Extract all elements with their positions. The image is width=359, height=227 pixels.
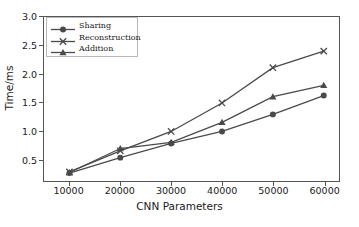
x-tick-label: 60000 [297,185,353,196]
x-tick-label: 50000 [245,185,301,196]
legend-label: Sharing [79,21,111,30]
y-tick-label: 1.5 [3,97,37,108]
legend-box: SharingReconstructionAddition [46,17,138,57]
data-point-circle [117,155,123,161]
y-tick-label: 2.5 [3,39,37,50]
x-tick-label: 40000 [194,185,250,196]
legend-item-sharing[interactable]: Sharing [50,20,134,32]
legend-marker-circle-icon [50,20,76,31]
x-tick-mark [171,182,172,186]
x-tick-mark [222,182,223,186]
data-point-x [219,100,225,106]
data-point-circle [270,111,276,117]
legend-item-addition[interactable]: Addition [50,43,134,55]
y-tick-label: 0.5 [3,155,37,166]
series-line [69,85,323,172]
series-line [69,51,323,172]
series-sharing [66,93,326,176]
legend-item-reconstruction[interactable]: Reconstruction [50,32,134,44]
series-addition [66,82,327,175]
y-tick-label: 1.0 [3,126,37,137]
data-point-triangle [320,82,327,88]
y-tick-label: 3.0 [3,11,37,22]
legend-label: Addition [79,44,113,53]
x-tick-label: 30000 [143,185,199,196]
x-axis-label: CNN Parameters [0,200,359,212]
legend-marker-x-icon [50,32,76,43]
data-point-circle [321,93,327,99]
legend-marker-triangle-icon [50,43,76,54]
data-point-x [270,65,276,71]
y-axis-label: Time/ms [3,43,15,133]
chart-figure: Time/ms 0.51.01.52.02.53.0 1000020000300… [0,0,359,227]
x-tick-mark [120,182,121,186]
data-point-triangle [218,119,225,125]
x-tick-mark [325,182,326,186]
x-tick-label: 10000 [41,185,97,196]
legend-label: Reconstruction [79,33,141,42]
y-tick-label: 2.0 [3,68,37,79]
data-point-x [321,48,327,54]
x-tick-label: 20000 [92,185,148,196]
data-point-x [168,128,174,134]
series-line [69,96,323,173]
data-point-circle [219,128,225,134]
x-tick-mark [69,182,70,186]
x-tick-mark [273,182,274,186]
